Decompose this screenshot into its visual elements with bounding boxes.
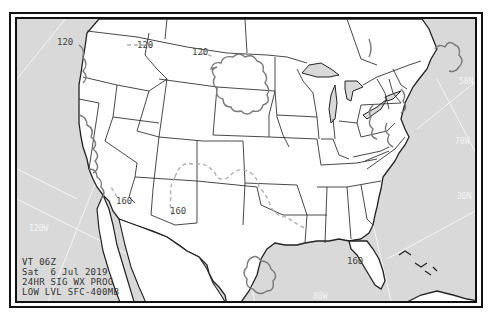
chart-caption: VT 06Z Sat 6 Jul 2019 24HR SIG WX PROG L…	[22, 257, 119, 297]
lon-label-120w: 120W	[29, 224, 48, 233]
fzl-label-160-az: 160	[116, 196, 132, 206]
fzl-label-160-tx: 160	[170, 206, 186, 216]
lon-label-70w: 70W	[455, 137, 470, 146]
lat-label-30n: 30N	[457, 192, 472, 201]
level-range: LOW LVL SFC-400MB	[22, 287, 119, 297]
valid-time: VT 06Z	[22, 257, 119, 267]
lon-label-80w: 80W	[313, 292, 328, 301]
lat-label-50n: 50N	[459, 77, 474, 86]
map-panel: 120 120 120 160 160 160 50N 70W 30N 120W…	[15, 17, 477, 303]
product-name: 24HR SIG WX PROG	[22, 277, 119, 287]
fzl-label-160-gulf: 160	[347, 256, 363, 266]
fzl-label-120-east: 120	[192, 47, 208, 57]
fzl-label-120-north: 120	[137, 40, 153, 50]
chart-date: Sat 6 Jul 2019	[22, 267, 119, 277]
fzl-label-120-west: 120	[57, 37, 73, 47]
